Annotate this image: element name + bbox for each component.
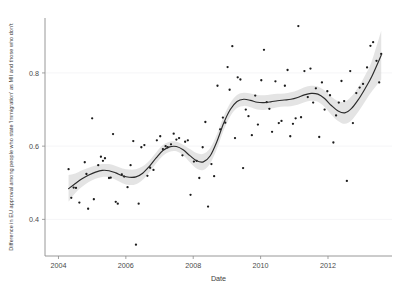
data-point	[300, 116, 302, 118]
data-point	[115, 201, 117, 203]
data-point	[117, 202, 119, 204]
data-point	[85, 173, 87, 175]
data-point	[245, 108, 247, 110]
data-point	[335, 114, 337, 116]
data-point	[193, 160, 195, 162]
data-point	[67, 168, 69, 170]
data-point	[380, 53, 382, 55]
x-tick-label: 2012	[320, 261, 336, 270]
data-point	[366, 66, 368, 68]
data-point	[72, 186, 74, 188]
data-point	[164, 145, 166, 147]
data-point	[263, 49, 265, 51]
data-point	[97, 164, 99, 166]
data-point	[222, 116, 224, 118]
data-point	[329, 94, 331, 96]
data-point	[286, 69, 288, 71]
data-point	[187, 139, 189, 141]
data-point	[102, 160, 104, 162]
data-point	[326, 90, 328, 92]
data-point	[280, 120, 282, 122]
data-point	[175, 138, 177, 140]
data-point	[104, 157, 106, 159]
data-point	[359, 86, 361, 88]
data-point	[210, 163, 212, 165]
x-tick-label: 2010	[253, 261, 269, 270]
data-point	[93, 198, 95, 200]
data-point	[110, 176, 112, 178]
x-tick-label: 2004	[50, 261, 66, 270]
data-point	[257, 123, 259, 125]
data-point	[138, 202, 140, 204]
data-point	[323, 108, 325, 110]
data-point	[202, 146, 204, 148]
data-point	[228, 89, 230, 91]
data-point	[254, 94, 256, 96]
y-tick-label: 0.4	[29, 215, 39, 224]
data-point	[129, 164, 131, 166]
data-point	[231, 45, 233, 47]
data-point	[332, 141, 334, 143]
data-point	[295, 117, 297, 119]
data-point	[271, 131, 273, 133]
data-point	[297, 25, 299, 27]
data-point	[213, 175, 215, 177]
data-point	[146, 175, 148, 177]
y-tick-label: 0.8	[29, 69, 39, 78]
data-point	[216, 85, 218, 87]
y-tick-label: 0.6	[29, 142, 39, 151]
data-point	[375, 60, 377, 62]
data-point	[143, 144, 145, 146]
data-point	[78, 201, 80, 203]
data-point	[247, 115, 249, 117]
data-point	[181, 154, 183, 156]
data-point	[234, 137, 236, 139]
data-point	[352, 122, 354, 124]
data-point	[251, 134, 253, 136]
data-point	[140, 146, 142, 148]
data-point	[346, 180, 348, 182]
data-point	[284, 85, 286, 87]
data-point	[189, 194, 191, 196]
data-point	[321, 81, 323, 83]
data-point	[378, 81, 380, 83]
data-point	[87, 208, 89, 210]
data-point	[126, 186, 128, 188]
data-point	[84, 161, 86, 163]
data-point	[372, 41, 374, 43]
data-point	[207, 205, 209, 207]
data-point	[340, 80, 342, 82]
data-point	[132, 140, 134, 142]
data-point	[170, 143, 172, 145]
data-point	[184, 141, 186, 143]
data-point	[355, 92, 357, 94]
data-point	[242, 167, 244, 169]
data-point	[156, 139, 158, 141]
data-point	[204, 121, 206, 123]
data-point	[226, 66, 228, 68]
data-point	[135, 244, 137, 246]
data-point	[178, 137, 180, 139]
data-point	[198, 177, 200, 179]
data-point	[318, 136, 320, 138]
data-point	[70, 197, 72, 199]
data-point	[307, 96, 309, 98]
scatter-plot-with-loess-smooth: 0.40.60.8 20042006200820102012 Date Diff…	[0, 0, 402, 290]
data-point	[239, 78, 241, 80]
data-point	[349, 70, 351, 72]
data-point	[152, 169, 154, 171]
data-point	[303, 70, 305, 72]
data-point	[268, 108, 270, 110]
data-point	[312, 101, 314, 103]
data-point	[159, 135, 161, 137]
data-point	[173, 133, 175, 135]
data-point	[91, 117, 93, 119]
chart-background	[0, 0, 402, 290]
x-tick-label: 2006	[118, 261, 134, 270]
x-axis-title: Date	[211, 274, 226, 283]
data-point	[237, 76, 239, 78]
data-point	[292, 123, 294, 125]
x-tick-label: 2008	[185, 261, 201, 270]
data-point	[369, 45, 371, 47]
data-point	[112, 133, 114, 135]
